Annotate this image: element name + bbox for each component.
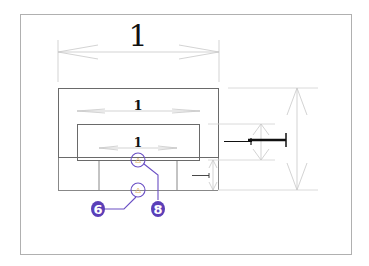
dimension-label-top: 1	[128, 18, 147, 53]
callout-label-6: 6	[93, 202, 102, 217]
dimension-label-inner: 1	[133, 98, 142, 113]
callout-label-8: 8	[153, 202, 162, 217]
target-circle-lower	[131, 183, 145, 197]
dimension-label-slot: 1	[134, 136, 142, 150]
dimension-middle-height	[253, 124, 269, 160]
technical-drawing: 1 1 1	[0, 0, 369, 266]
dimension-mark-middle	[224, 133, 286, 147]
dimension-right-height	[287, 88, 307, 190]
leader-line-6	[104, 197, 136, 209]
dimension-mark-small	[192, 173, 209, 178]
lower-slot	[58, 157, 219, 191]
dimension-slot-height	[209, 160, 217, 190]
leader-line-8	[144, 164, 158, 200]
drawing-frame	[21, 15, 352, 255]
callout-8: 8	[131, 153, 165, 217]
